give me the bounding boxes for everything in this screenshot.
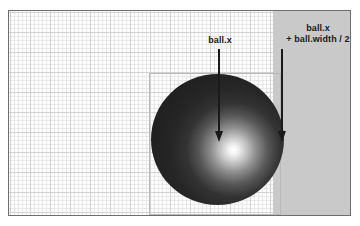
label-line-1: ball.x bbox=[278, 23, 351, 34]
figure-canvas: ball.x ball.x + ball.width / 2 bbox=[0, 0, 360, 226]
framed-diagram-area: ball.x ball.x + ball.width / 2 bbox=[8, 10, 351, 216]
arrow-head-down-icon bbox=[278, 131, 286, 142]
label-line-2: + ball.width / 2 bbox=[278, 34, 351, 45]
arrow-head-down-icon bbox=[215, 131, 223, 142]
arrow-ball-x-plus-half-width bbox=[281, 49, 283, 144]
arrow-shaft bbox=[281, 49, 283, 133]
arrow-shaft bbox=[218, 49, 220, 133]
label-ball-x-plus-half-width: ball.x + ball.width / 2 bbox=[278, 23, 351, 45]
label-ball-x: ball.x bbox=[195, 35, 245, 46]
arrow-ball-x bbox=[218, 49, 220, 144]
